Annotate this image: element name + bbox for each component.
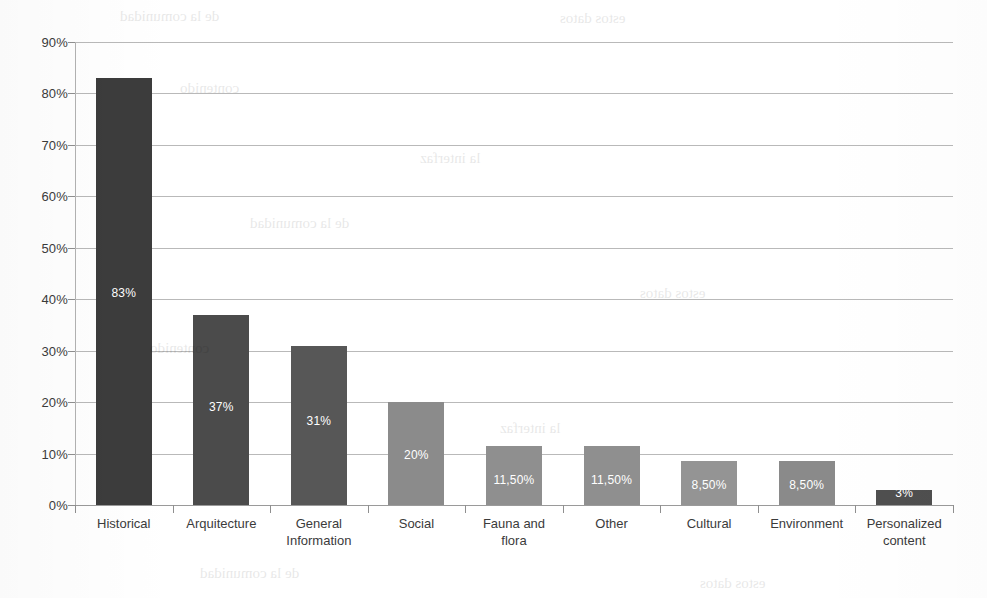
x-axis-ticks <box>75 505 953 515</box>
y-axis: 0%10%20%30%40%50%60%70%80%90% <box>0 42 68 505</box>
bar-chart: 0%10%20%30%40%50%60%70%80%90% 83%37%31%2… <box>0 0 987 598</box>
bar-group: 11,50% <box>465 42 563 505</box>
y-axis-tick-label: 90% <box>22 35 68 50</box>
bar-group: 8,50% <box>660 42 758 505</box>
y-axis-tick-label: 20% <box>22 395 68 410</box>
y-axis-tick-label: 60% <box>22 189 68 204</box>
bar-value-label: 20% <box>380 448 452 462</box>
y-axis-tick-label: 0% <box>22 498 68 513</box>
y-axis-tick-label: 70% <box>22 137 68 152</box>
x-axis-tick-mark <box>368 505 369 513</box>
y-axis-tick-mark <box>68 248 75 249</box>
x-axis-tick-mark <box>173 505 174 513</box>
y-axis-tick-label: 50% <box>22 240 68 255</box>
y-axis-tick-mark <box>68 402 75 403</box>
y-axis-tick-mark <box>68 505 75 506</box>
bar-value-label: 3% <box>868 486 940 500</box>
y-axis-tick-label: 80% <box>22 86 68 101</box>
x-axis-tick-mark <box>270 505 271 513</box>
y-axis-tick-label: 40% <box>22 292 68 307</box>
x-axis-category-label-line: Information <box>259 532 379 549</box>
x-axis-tick-mark <box>465 505 466 513</box>
y-axis-tick-mark <box>68 42 75 43</box>
x-axis-category-label: Personalizedcontent <box>844 515 964 549</box>
bar-group: 37% <box>173 42 271 505</box>
bar-group: 83% <box>75 42 173 505</box>
y-axis-tick-mark <box>68 454 75 455</box>
x-axis-tick-mark <box>75 505 76 513</box>
bar-value-label: 31% <box>283 414 355 428</box>
y-axis-tick-mark <box>68 299 75 300</box>
x-axis-tick-mark <box>953 505 954 513</box>
y-axis-tick-mark <box>68 145 75 146</box>
bars-layer: 83%37%31%20%11,50%11,50%8,50%8,50%3% <box>75 42 953 505</box>
x-axis-tick-mark <box>660 505 661 513</box>
y-axis-tick-mark <box>68 93 75 94</box>
x-axis-tick-mark <box>855 505 856 513</box>
bar-group: 11,50% <box>563 42 661 505</box>
y-axis-tick-label: 10% <box>22 446 68 461</box>
bar-value-label: 8,50% <box>771 478 843 492</box>
x-axis-category-label-line: content <box>844 532 964 549</box>
bar-value-label: 11,50% <box>478 473 550 487</box>
bar-group: 3% <box>855 42 953 505</box>
x-axis-tick-mark <box>563 505 564 513</box>
bar-value-label: 8,50% <box>673 478 745 492</box>
bar-value-label: 83% <box>88 286 160 300</box>
x-axis-category-label-line: Personalized <box>844 515 964 532</box>
y-axis-tick-label: 30% <box>22 343 68 358</box>
bar-value-label: 11,50% <box>576 473 648 487</box>
y-axis-tick-mark <box>68 351 75 352</box>
bar-value-label: 37% <box>185 400 257 414</box>
bar-group: 8,50% <box>758 42 856 505</box>
y-axis-tick-mark <box>68 196 75 197</box>
x-axis-category-label-line: flora <box>454 532 574 549</box>
bar-group: 20% <box>368 42 466 505</box>
x-axis-tick-mark <box>758 505 759 513</box>
x-axis: HistoricalArquitectureGeneralInformation… <box>75 515 953 575</box>
bar-group: 31% <box>270 42 368 505</box>
